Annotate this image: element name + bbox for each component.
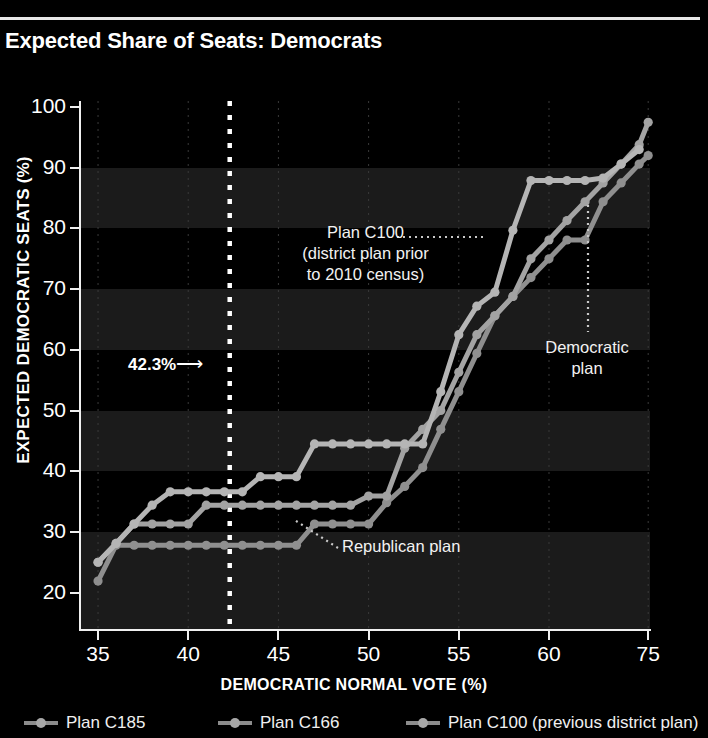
y-axis-tick [70, 227, 79, 229]
legend-label: Plan C185 [66, 713, 145, 733]
series-point [526, 273, 535, 282]
y-axis-tick [70, 288, 79, 290]
series-point [148, 519, 157, 528]
y-axis-tick-label: 100 [31, 94, 66, 118]
series-point [617, 178, 626, 187]
series-point [93, 558, 102, 567]
series-point [382, 491, 391, 500]
series-point [364, 439, 373, 448]
x-axis-tick-label: 45 [248, 642, 308, 666]
annotation-plan-c100: Plan C100 (district plan prior to 2010 c… [258, 222, 473, 285]
series-point [472, 330, 481, 339]
series-point [238, 501, 247, 510]
series-point [256, 472, 265, 481]
series-point [93, 576, 102, 585]
annotation-democratic-plan: Democratic plan [522, 337, 652, 379]
annotation-republican-plan: Republican plan [342, 536, 542, 557]
y-axis-tick-label: 90 [43, 155, 66, 179]
series-point [166, 487, 175, 496]
series-point [184, 519, 193, 528]
x-axis-tick [277, 631, 279, 640]
series-point [292, 472, 301, 481]
x-axis-line [79, 629, 651, 631]
series-point [544, 176, 553, 185]
y-axis-tick-label: 40 [43, 458, 66, 482]
y-axis-title: EXPECTED DEMOCRATIC SEATS (%) [14, 100, 34, 520]
right-arrow-icon: ⟶ [176, 353, 203, 374]
series-point [562, 176, 571, 185]
series-point [454, 368, 463, 377]
series-point [644, 151, 653, 160]
series-point [635, 160, 644, 169]
legend-item[interactable]: Plan C100 (previous district plan) [406, 707, 698, 738]
y-axis-line [79, 101, 81, 630]
series-point [148, 541, 157, 550]
series-point [202, 501, 211, 510]
y-axis-tick-label: 80 [43, 215, 66, 239]
series-point [130, 541, 139, 550]
legend-label: Plan C166 [260, 713, 339, 733]
legend-marker-icon [406, 716, 440, 730]
series-point [580, 197, 589, 206]
series-point [617, 160, 626, 169]
series-point [111, 539, 120, 548]
y-axis-tick [70, 410, 79, 412]
series-point [418, 463, 427, 472]
y-axis-tick-label: 30 [43, 519, 66, 543]
series-point [292, 541, 301, 550]
y-axis-tick [70, 106, 79, 108]
x-axis-tick-label: 50 [339, 642, 399, 666]
x-axis-tick [458, 631, 460, 640]
series-point [562, 216, 571, 225]
y-axis-tick [70, 167, 79, 169]
series-point [256, 541, 265, 550]
series-point [508, 226, 517, 235]
series-point [472, 302, 481, 311]
x-axis-tick-label: 35 [68, 642, 128, 666]
x-axis-tick [647, 631, 649, 640]
series-point [490, 288, 499, 297]
series-point [526, 176, 535, 185]
series-point [544, 235, 553, 244]
y-axis-tick-label: 70 [43, 276, 66, 300]
series-point [346, 519, 355, 528]
series-point [436, 425, 445, 434]
x-axis-tick-label: 75 [618, 642, 678, 666]
series-point [310, 501, 319, 510]
series-point [310, 519, 319, 528]
series-point [562, 235, 571, 244]
series-point [644, 118, 653, 127]
series-point [400, 439, 409, 448]
series-point [238, 487, 247, 496]
series-point [130, 519, 139, 528]
x-axis-tick [187, 631, 189, 640]
x-axis-tick-label: 60 [519, 642, 579, 666]
series-point [472, 349, 481, 358]
chart-legend: Plan C185Plan C166Plan C100 (previous di… [0, 707, 708, 738]
legend-item[interactable]: Plan C166 [218, 707, 339, 738]
y-axis-tick [70, 531, 79, 533]
series-point [599, 197, 608, 206]
series-point [454, 387, 463, 396]
series-point [220, 541, 229, 550]
series-point [418, 439, 427, 448]
series-point [184, 541, 193, 550]
legend-item[interactable]: Plan C185 [24, 707, 145, 738]
y-axis-tick [70, 470, 79, 472]
series-point [346, 501, 355, 510]
page-title: Expected Share of Seats: Democrats [5, 28, 382, 54]
legend-label: Plan C100 (previous district plan) [448, 713, 698, 733]
series-point [490, 311, 499, 320]
series-point [274, 501, 283, 510]
series-point [310, 439, 319, 448]
series-point [544, 254, 553, 263]
series-point [328, 439, 337, 448]
series-point [292, 501, 301, 510]
series-point [436, 387, 445, 396]
series-point [256, 501, 265, 510]
threshold-value: 42.3% [128, 355, 176, 374]
series-point [202, 487, 211, 496]
x-axis-tick-label: 55 [429, 642, 489, 666]
series-point [184, 487, 193, 496]
series-point [148, 501, 157, 510]
